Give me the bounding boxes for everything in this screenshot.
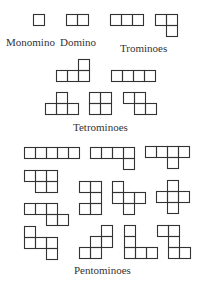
domino-shape	[67, 15, 89, 26]
cell	[145, 71, 156, 82]
cell	[124, 148, 135, 159]
cell	[91, 182, 102, 193]
cell	[125, 248, 136, 259]
cell	[167, 26, 178, 37]
cell	[167, 15, 178, 26]
pentomino-y-shape	[146, 147, 190, 169]
cell	[80, 248, 91, 259]
pentomino-u-shape	[80, 182, 102, 215]
cell	[168, 181, 179, 192]
cell	[157, 147, 168, 158]
cell	[47, 182, 58, 193]
cell	[169, 248, 180, 259]
tromino-l-shape	[156, 15, 178, 37]
cell	[180, 248, 191, 259]
cell	[113, 148, 124, 159]
tetromino-z-shape	[124, 93, 157, 115]
cell	[36, 171, 47, 182]
cell	[46, 104, 57, 115]
cell	[79, 60, 90, 71]
cell	[57, 93, 68, 104]
cell	[112, 71, 123, 82]
cell	[90, 93, 101, 104]
cell	[147, 248, 158, 259]
pentomino-f-shape	[113, 182, 146, 215]
cell	[101, 104, 112, 115]
label-tetrominoes: Tetrominoes	[73, 122, 128, 133]
pentomino-z-shape	[25, 227, 58, 260]
cell	[113, 182, 124, 193]
cell	[36, 182, 47, 193]
cell	[68, 71, 79, 82]
cell	[58, 215, 69, 226]
pentomino-l-shape	[91, 148, 135, 170]
tetromino-l-shape	[57, 60, 90, 82]
cell	[68, 104, 79, 115]
label-monomino: Monomino	[6, 37, 55, 48]
cell	[90, 104, 101, 115]
cell	[135, 193, 146, 204]
cell	[25, 171, 36, 182]
cell	[168, 147, 179, 158]
cell	[25, 227, 36, 238]
cell	[179, 192, 190, 203]
tetromino-i-shape	[112, 71, 156, 82]
tetromino-o-shape	[90, 93, 112, 115]
cell	[134, 71, 145, 82]
cell	[169, 237, 180, 248]
pentomino-x-shape	[157, 181, 190, 214]
cell	[124, 159, 135, 170]
cell	[47, 215, 58, 226]
monomino-shape	[34, 15, 45, 26]
cell	[58, 148, 69, 159]
cell	[146, 104, 157, 115]
cell	[47, 204, 58, 215]
cell	[168, 158, 179, 169]
cell	[91, 237, 102, 248]
cell	[57, 71, 68, 82]
cell	[156, 15, 167, 26]
cell	[101, 93, 112, 104]
cell	[125, 237, 136, 248]
polyomino-diagram: Monomino Domino Trominoes Tetrominoes Pe…	[0, 0, 200, 287]
cell	[80, 204, 91, 215]
cell	[47, 238, 58, 249]
cell	[157, 192, 168, 203]
pentomino-v-shape	[125, 226, 158, 259]
cell	[158, 226, 169, 237]
cell	[36, 204, 47, 215]
cell	[124, 193, 135, 204]
cell	[57, 104, 68, 115]
cell	[78, 15, 89, 26]
cell	[69, 148, 80, 159]
cell	[125, 226, 136, 237]
cell	[136, 248, 147, 259]
cell	[102, 237, 113, 248]
cell	[91, 193, 102, 204]
cell	[111, 15, 122, 26]
cell	[146, 147, 157, 158]
cell	[124, 204, 135, 215]
cell	[47, 249, 58, 260]
cell	[34, 15, 45, 26]
cell	[102, 148, 113, 159]
cell	[135, 93, 146, 104]
pentomino-i-shape	[25, 148, 80, 159]
cell	[91, 248, 102, 259]
pentomino-p-shape	[25, 171, 58, 193]
pentomino-w-shape	[80, 226, 113, 259]
cell	[133, 15, 144, 26]
cell	[80, 182, 91, 193]
cell	[179, 147, 190, 158]
cell	[135, 104, 146, 115]
cell	[67, 15, 78, 26]
cell	[91, 148, 102, 159]
cell	[91, 204, 102, 215]
pentomino-s-shape	[158, 226, 191, 259]
cell	[122, 15, 133, 26]
cell	[47, 171, 58, 182]
cell	[169, 226, 180, 237]
cell	[36, 148, 47, 159]
label-trominoes: Trominoes	[120, 43, 167, 54]
cell	[113, 193, 124, 204]
